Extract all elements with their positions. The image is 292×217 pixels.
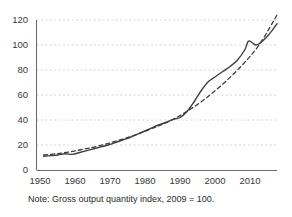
y-tick-label: 60 xyxy=(2,90,28,100)
x-tick-label: 2010 xyxy=(233,176,267,186)
x-tick-label: 1990 xyxy=(163,176,197,186)
y-tick-label: 100 xyxy=(2,40,28,50)
chart-figure: 120 100 80 60 40 20 0 1950 1960 1970 198… xyxy=(0,0,292,217)
x-tick-label: 1970 xyxy=(93,176,127,186)
x-tick-label: 1980 xyxy=(128,176,162,186)
x-tick-label: 1960 xyxy=(58,176,92,186)
series-output-line xyxy=(44,24,277,157)
y-tick-label: 40 xyxy=(2,115,28,125)
chart-note: Note: Gross output quantity index, 2009 … xyxy=(28,194,214,204)
y-tick-label: 120 xyxy=(2,15,28,25)
y-tick-label: 20 xyxy=(2,140,28,150)
x-tick-label: 2000 xyxy=(198,176,232,186)
y-tick-label: 0 xyxy=(2,165,28,175)
series-trend-line xyxy=(44,15,277,155)
y-tick-label: 80 xyxy=(2,65,28,75)
x-tick-label: 1950 xyxy=(23,176,57,186)
